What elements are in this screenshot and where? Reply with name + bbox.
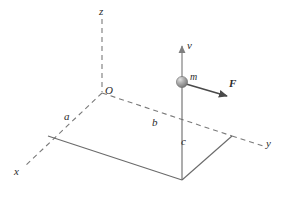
y-axis-label: y	[266, 138, 271, 149]
physics-diagram: z x y O a b c m v F	[0, 0, 287, 198]
base-edge-left	[48, 136, 182, 180]
base-edge-right	[182, 136, 232, 180]
segment-c-label: c	[181, 136, 186, 147]
y-axis-line	[232, 136, 263, 146]
x-axis-label: x	[14, 166, 19, 177]
force-vector-label: F	[229, 78, 236, 89]
velocity-vector-label: v	[187, 40, 192, 51]
segment-b-label: b	[152, 117, 158, 128]
segment-a-label: a	[64, 111, 70, 122]
x-axis-line	[25, 93, 102, 166]
particle-sphere	[176, 76, 187, 87]
mass-label: m	[190, 72, 197, 82]
segment-b-line	[102, 93, 232, 136]
diagram-canvas	[0, 0, 287, 198]
z-axis-label: z	[99, 6, 103, 17]
force-vector-arrow	[186, 84, 227, 96]
origin-label: O	[105, 85, 113, 96]
